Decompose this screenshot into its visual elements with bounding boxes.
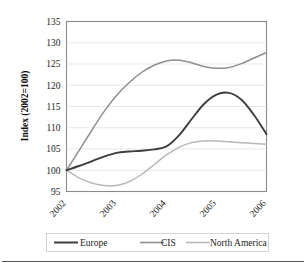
y-axis-tick-label: 135 [46,17,61,27]
legend-label-cis: CIS [161,238,176,248]
x-axis-tick-label: 2006 [248,198,268,219]
legend-label-north-america: North America [210,238,268,248]
x-axis-tick-label: 2005 [198,198,218,219]
y-axis-tick-label: 105 [46,144,61,154]
y-axis-tick-label: 125 [46,59,61,69]
x-axis-tick-label: 2002 [48,198,68,219]
y-axis-label: Index (2002=100) [20,71,31,142]
x-axis-tick-label: 2003 [98,198,118,219]
legend-entries: EuropeCISNorth America [54,238,268,248]
legend-label-europe: Europe [80,238,107,248]
y-axis-tick-label: 110 [47,123,61,133]
y-axis-tick-label: 120 [46,81,61,91]
x-axis-tick-label: 2004 [148,198,168,219]
chart-figure: 95100105110115120125130135 2002200320042… [0,0,306,267]
line-chart: 95100105110115120125130135 2002200320042… [0,0,306,267]
y-axis-tick-label: 95 [51,187,61,197]
y-axis-tick-label: 115 [47,102,61,112]
y-axis-tick-label: 130 [46,38,61,48]
y-axis-tick-labels: 95100105110115120125130135 [46,17,61,197]
x-axis-tick-labels: 20022003200420052006 [48,198,268,219]
y-axis-tick-label: 100 [46,166,61,176]
